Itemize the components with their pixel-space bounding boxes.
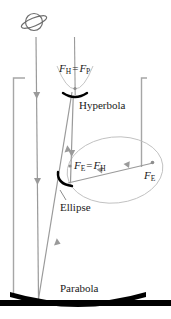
- incoming-ray-left: [33, 37, 41, 299]
- label-ellipse: Ellipse: [60, 202, 91, 213]
- saturn-planet-icon: [20, 13, 48, 31]
- label-fh-base: F: [59, 62, 66, 74]
- label-hyperbola: Hyperbola: [79, 100, 125, 111]
- label-fe-equals: =: [85, 159, 93, 171]
- label-fp-sub: P: [86, 67, 90, 76]
- ellipse-label-leader-line: [60, 190, 66, 200]
- label-focus-ellipse-hyperbola: FE=FH: [74, 160, 106, 172]
- label-parabola: Parabola: [60, 283, 98, 294]
- label-fh2-sub: H: [100, 164, 105, 173]
- ray-parabola-to-hyperbola: [39, 92, 73, 299]
- parabola-primary-mirror: [0, 292, 171, 307]
- label-fe-right-sub: E: [151, 174, 156, 183]
- focus-point-fe-fh: [68, 164, 71, 167]
- telescope-optics-diagram: FH=FP Hyperbola FE=FH FE Ellipse Parabol…: [0, 0, 171, 319]
- focus-point-fh-fp: [73, 87, 76, 90]
- label-focus-hyperbola-parabola: FH=FP: [59, 63, 90, 75]
- label-focus-ellipse-right: FE: [144, 170, 155, 182]
- focus-point-fe-right: [151, 161, 155, 165]
- tube-wall-left: [14, 78, 26, 294]
- tube-wall-right: [142, 78, 148, 167]
- label-fe-base: F: [74, 159, 81, 171]
- label-fe-right-base: F: [144, 169, 151, 181]
